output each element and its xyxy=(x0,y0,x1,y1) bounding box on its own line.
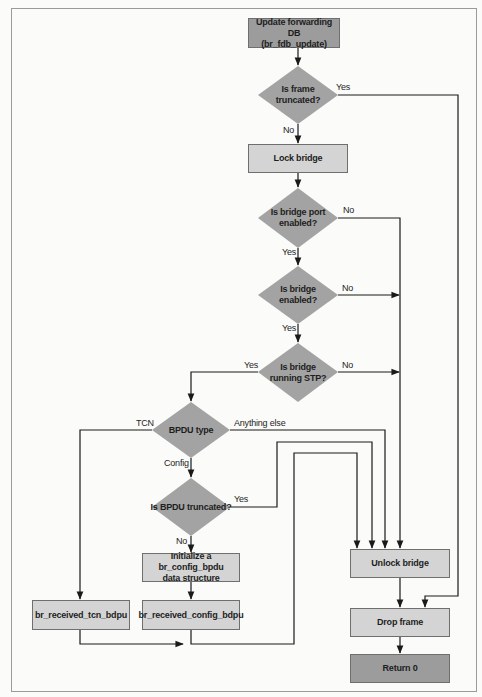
bridge-enabled-line2: enabled? xyxy=(279,295,317,306)
drop-frame-label: Drop frame xyxy=(377,617,423,628)
unlock-bridge-label: Unlock bridge xyxy=(371,558,428,569)
edge-label-frame-truncated-no: No xyxy=(283,125,294,135)
edge-label-bpdu-truncated-yes: Yes xyxy=(234,494,248,504)
start-node-update-forwarding-db: Update forwarding DB (br_fdb_update) xyxy=(248,18,340,48)
edge-label-frame-truncated-yes: Yes xyxy=(336,82,350,92)
init-config-line1: Initialize a br_config_bpdu xyxy=(143,551,239,573)
init-config-line2: data structure xyxy=(143,573,239,584)
recv-tcn-label: br_received_tcn_bdpu xyxy=(35,610,127,621)
frame-truncated-line2: truncated? xyxy=(276,95,321,106)
drop-frame-node: Drop frame xyxy=(350,608,450,637)
start-node-line2: (br_fdb_update) xyxy=(249,39,339,50)
bpdu-truncated-label: Is BPDU truncated? xyxy=(151,502,232,513)
edge-label-running-stp-yes: Yes xyxy=(244,360,258,370)
edge-label-port-enabled-no: No xyxy=(343,205,354,215)
bpdu-type-label: BPDU type xyxy=(169,425,214,436)
running-stp-line2: running STP? xyxy=(270,373,327,384)
recv-config-bdpu-node: br_received_config_bdpu xyxy=(142,600,240,630)
return-zero-node: Return 0 xyxy=(350,654,450,683)
running-stp-line1: Is bridge xyxy=(270,362,327,373)
recv-config-label: br_received_config_bdpu xyxy=(139,610,244,621)
port-enabled-line2: enabled? xyxy=(271,218,326,229)
lock-bridge-node: Lock bridge xyxy=(248,144,348,173)
port-enabled-line1: Is bridge port xyxy=(271,207,326,218)
decision-bridge-enabled: Is bridge enabled? xyxy=(258,266,338,324)
edge-label-bpdu-anything-else: Anything else xyxy=(234,418,285,428)
edge-label-port-enabled-yes: Yes xyxy=(282,247,296,257)
lock-bridge-label: Lock bridge xyxy=(274,153,323,164)
recv-tcn-bdpu-node: br_received_tcn_bdpu xyxy=(32,600,130,630)
decision-port-enabled: Is bridge port enabled? xyxy=(258,188,338,248)
decision-bpdu-type: BPDU type xyxy=(152,402,230,458)
edge-label-running-stp-no: No xyxy=(342,360,353,370)
edge-label-bpdu-tcn: TCN xyxy=(136,418,154,428)
unlock-bridge-node: Unlock bridge xyxy=(350,549,450,578)
edge-label-bridge-enabled-yes: Yes xyxy=(282,323,296,333)
decision-bpdu-truncated: Is BPDU truncated? xyxy=(150,478,232,536)
edge-label-bridge-enabled-no: No xyxy=(342,283,353,293)
return-zero-label: Return 0 xyxy=(383,663,418,674)
edge-label-bpdu-config: Config xyxy=(164,458,189,468)
init-config-bpdu-node: Initialize a br_config_bpdu data structu… xyxy=(142,553,240,582)
decision-frame-truncated: Is frame truncated? xyxy=(258,66,338,124)
decision-running-stp: Is bridge running STP? xyxy=(258,343,338,402)
start-node-line1: Update forwarding DB xyxy=(249,17,339,39)
connector-lines xyxy=(0,0,482,697)
edge-label-bpdu-truncated-no: No xyxy=(176,536,187,546)
bridge-enabled-line1: Is bridge xyxy=(279,284,317,295)
frame-truncated-line1: Is frame xyxy=(276,84,321,95)
